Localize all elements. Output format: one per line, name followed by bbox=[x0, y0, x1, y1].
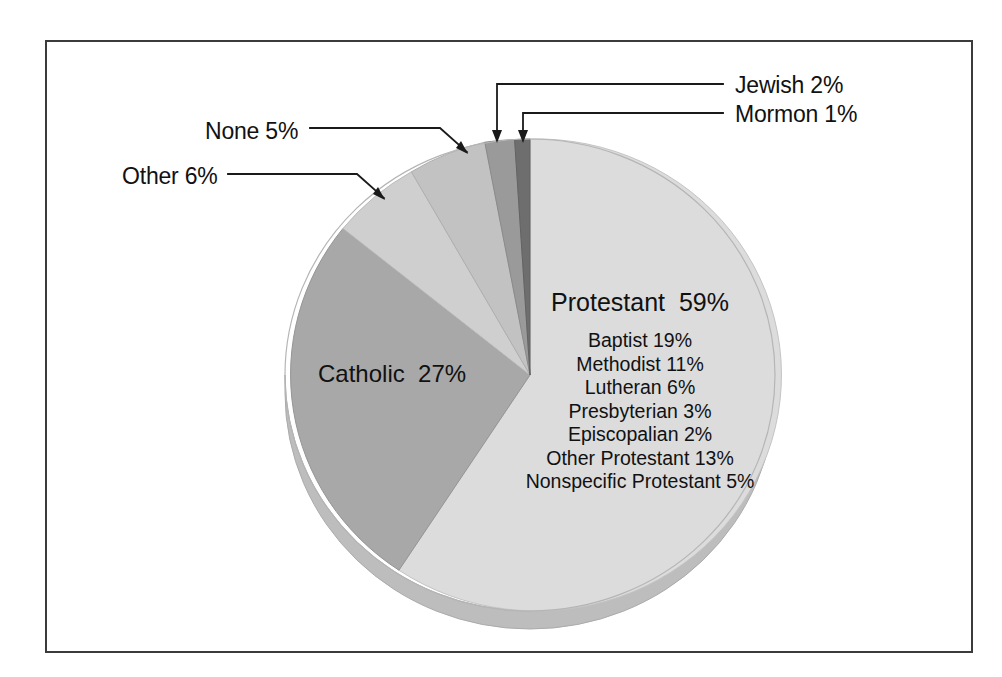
protestant-breakdown-row: Lutheran 6% bbox=[470, 376, 810, 400]
slice-label-mormon: Mormon 1% bbox=[735, 101, 857, 128]
slice-label-jewish: Jewish 2% bbox=[735, 72, 843, 99]
leader-line-jewish bbox=[497, 84, 723, 139]
protestant-breakdown-row: Other Protestant 13% bbox=[470, 447, 810, 471]
slice-label-protestant: Protestant 59% bbox=[470, 288, 810, 317]
slice-label-other: Other 6% bbox=[122, 163, 218, 190]
protestant-label-block: Protestant 59% Baptist 19%Methodist 11%L… bbox=[470, 288, 810, 494]
protestant-breakdown-row: Presbyterian 3% bbox=[470, 400, 810, 424]
slice-label-catholic: Catholic 27% bbox=[318, 360, 466, 388]
protestant-breakdown-row: Nonspecific Protestant 5% bbox=[470, 470, 810, 494]
protestant-breakdown-row: Episcopalian 2% bbox=[470, 423, 810, 447]
leader-line-mormon bbox=[523, 113, 723, 139]
leader-line-other bbox=[228, 174, 384, 198]
protestant-breakdown-row: Methodist 11% bbox=[470, 353, 810, 377]
pie-chart-figure: None 5% Other 6% Jewish 2% Mormon 1% Cat… bbox=[0, 0, 1002, 677]
protestant-breakdown-row: Baptist 19% bbox=[470, 329, 810, 353]
protestant-breakdown-list: Baptist 19%Methodist 11%Lutheran 6%Presb… bbox=[470, 329, 810, 494]
leader-line-none bbox=[310, 128, 467, 152]
slice-label-none: None 5% bbox=[205, 118, 298, 145]
